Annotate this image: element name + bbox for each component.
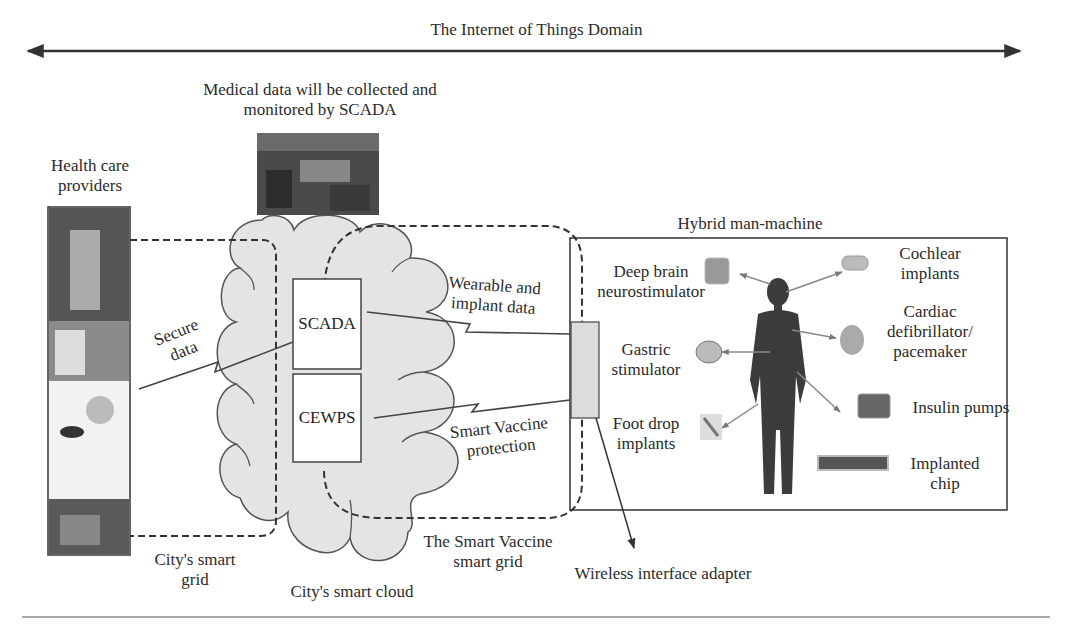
device-foot-drop: Foot drop implants	[596, 414, 696, 454]
device-insulin: Insulin pumps	[896, 398, 1026, 418]
insulin-pump-icon	[858, 394, 890, 418]
health-care-providers-photos	[48, 207, 130, 555]
pacemaker-icon	[840, 325, 864, 355]
scada-label: SCADA	[289, 314, 365, 334]
hybrid-title: Hybrid man-machine	[640, 214, 860, 234]
wireless-adapter-label: Wireless interface adapter	[548, 564, 778, 584]
device-cochlear: Cochlear implants	[880, 244, 980, 284]
health-care-providers-label: Health care providers	[20, 156, 160, 196]
scada-control-room-photo	[257, 133, 379, 215]
implanted-chip-icon	[818, 456, 888, 470]
cewps-label: CEWPS	[289, 408, 365, 428]
device-cardiac: Cardiac defibrillator/ pacemaker	[870, 302, 990, 362]
wireless-adapter-box	[571, 322, 599, 418]
iot-domain-title: The Internet of Things Domain	[0, 20, 1073, 40]
human-body-figure	[750, 278, 806, 494]
device-deep-brain: Deep brain neurostimulator	[586, 262, 716, 302]
city-smart-cloud-label: City's smart cloud	[262, 582, 442, 602]
device-chip: Implanted chip	[890, 454, 1000, 494]
foot-drop-implant-icon	[700, 414, 722, 440]
cochlear-implant-icon	[842, 256, 868, 270]
city-smart-grid-label: City's smart grid	[130, 550, 260, 590]
scada-caption: Medical data will be collected and monit…	[160, 80, 480, 120]
gastric-stimulator-icon	[696, 341, 722, 363]
device-gastric: Gastric stimulator	[596, 340, 696, 380]
